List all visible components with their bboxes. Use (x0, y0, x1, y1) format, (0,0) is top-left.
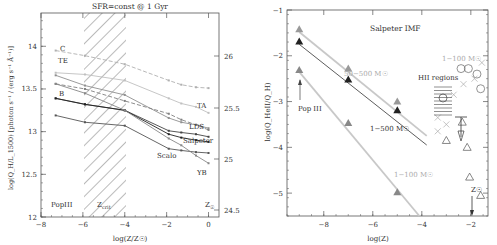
triangle-marker (295, 38, 303, 45)
y-tick-label: 13.5 (21, 85, 37, 93)
open-triangle-marker (463, 143, 471, 150)
x-tick-label: 0 (206, 221, 210, 229)
data-point (124, 63, 126, 65)
label-zsun-left: Z☉ (205, 201, 215, 210)
circle-marker (464, 65, 472, 73)
y-tick-label: −5 (273, 190, 283, 198)
data-point (180, 84, 182, 86)
data-point (168, 117, 170, 119)
cross-marker (472, 76, 478, 82)
data-point (208, 129, 210, 131)
y-tick-label: −3 (273, 98, 283, 106)
open-triangle-marker (458, 118, 466, 125)
label-50-500: 50−500 M☉ (344, 70, 388, 78)
data-point (55, 72, 57, 74)
fit-line (299, 72, 419, 216)
data-point (124, 109, 126, 111)
data-point (84, 55, 86, 57)
x-tick-label: −6 (78, 221, 89, 229)
y-tick-label: −4 (273, 144, 284, 152)
label-scalo: Scalo (157, 152, 176, 160)
series-te (56, 73, 209, 113)
data-point (168, 130, 170, 132)
cross-marker (435, 115, 441, 121)
data-point (84, 103, 86, 105)
x-tick-label: −6 (368, 221, 379, 229)
label-1-100-obs: 1−100 M☉ (442, 55, 481, 63)
figure: SFR=const @ 1 Gyr −8−6−4−201212.51313.51… (0, 0, 497, 245)
label-te: TE (58, 57, 68, 65)
data-point (84, 88, 86, 90)
data-point (55, 83, 57, 85)
y-tick-label: 14 (28, 43, 37, 51)
data-point (168, 137, 170, 139)
x-tick-label: −2 (161, 221, 171, 229)
label-zsun-right: Z☉ (471, 186, 482, 194)
data-point (208, 87, 210, 89)
data-point (168, 133, 170, 135)
data-point (180, 131, 182, 133)
data-point (55, 97, 57, 99)
x-tick-label: −4 (120, 221, 131, 229)
data-point (124, 100, 126, 102)
label-salpeter: Salpeter (183, 137, 214, 145)
data-point (195, 133, 197, 135)
data-point (168, 97, 170, 99)
label-ta: TA (197, 102, 207, 110)
y-tick-label: −1 (273, 7, 283, 15)
open-triangle-marker (442, 136, 450, 143)
cross-marker (460, 81, 466, 87)
left-title: SFR=const @ 1 Gyr (92, 2, 168, 11)
right-chart: −8−6−4−2−1−2−3−4−5 Salpeter IMF Pop III … (264, 7, 488, 244)
label-lds: LDS (189, 123, 204, 131)
y-tick-label: 12 (28, 214, 37, 222)
label-popiii: PopIII (51, 201, 73, 209)
right-ylabel: log(Q_HeII/Q_H) (264, 82, 272, 141)
data-point (208, 112, 210, 114)
data-point (180, 121, 182, 123)
label-hii-regions: HII regions (418, 74, 459, 82)
data-point (124, 125, 126, 127)
data-point (168, 79, 170, 81)
data-point (168, 148, 170, 150)
triangle-marker (344, 119, 352, 126)
open-triangle-marker (466, 173, 474, 180)
zcrit-hatched-region (84, 13, 126, 217)
x-tick-label: −4 (417, 221, 428, 229)
left-ylabel: log(Q_H/L_1500) [photon s⁻¹ / (erg s⁻¹ Å… (6, 46, 15, 190)
y2-tick-label: 24.5 (224, 207, 240, 215)
data-point (84, 85, 86, 87)
cross-marker (435, 128, 441, 134)
triangle-marker (295, 66, 303, 73)
x-tick-label: −8 (319, 221, 329, 229)
x-tick-label: −2 (466, 221, 476, 229)
left-chart: SFR=const @ 1 Gyr −8−6−4−201212.51313.51… (6, 2, 240, 243)
right-series (295, 25, 426, 216)
cross-marker (451, 92, 457, 98)
data-point (180, 119, 182, 121)
label-b: B (59, 90, 64, 98)
data-point (180, 102, 182, 104)
data-point (84, 92, 86, 94)
right-plot-frame (287, 10, 488, 216)
data-point (195, 151, 197, 153)
left-xlabel: log(Z/Z☉) (113, 235, 148, 243)
label-pop-iii: Pop III (298, 105, 322, 113)
data-point (208, 162, 210, 164)
label-1-500: 1−500 M☉ (370, 125, 409, 133)
pop-iii-arrowhead (298, 79, 302, 85)
data-point (168, 113, 170, 115)
right-title: Salpeter IMF (370, 24, 421, 33)
data-point (55, 114, 57, 116)
left-series-lines (55, 50, 210, 165)
y2-tick-label: 26 (224, 53, 233, 61)
circle-marker (477, 85, 485, 93)
label-1-100: 1−100 M☉ (394, 171, 433, 179)
y-tick-label: −2 (273, 52, 283, 60)
data-point (180, 144, 182, 146)
data-point (180, 137, 182, 139)
y-tick-label: 12.5 (21, 171, 37, 179)
right-xlabel: log(Z) (367, 235, 389, 243)
x-tick-label: −8 (36, 221, 46, 229)
series-c (56, 51, 209, 89)
